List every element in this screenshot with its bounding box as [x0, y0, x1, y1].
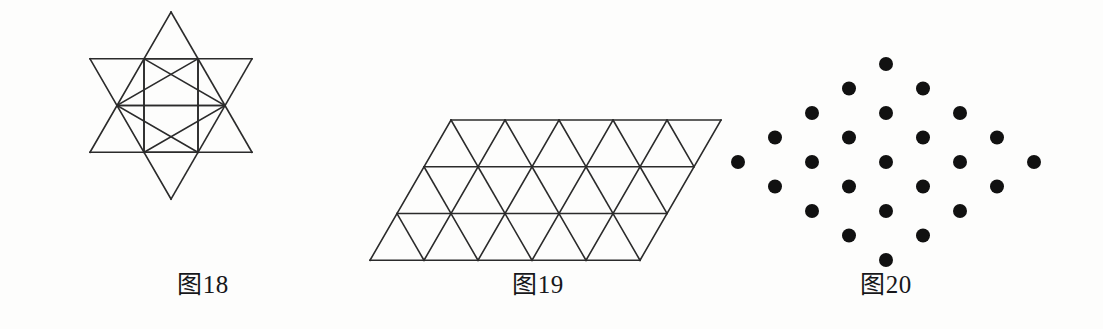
para-slant-right — [613, 120, 640, 167]
para-slant-right — [424, 167, 451, 214]
figure-19 — [352, 110, 724, 274]
dot — [768, 131, 782, 145]
dot — [842, 131, 856, 145]
hexagram-figure — [18, 6, 388, 274]
dot — [879, 106, 893, 120]
para-slant-left — [424, 120, 505, 260]
para-slant-left — [478, 120, 559, 260]
para-slant-right — [451, 214, 478, 261]
dot — [990, 180, 1004, 194]
dot — [990, 131, 1004, 145]
para-slant-right — [559, 120, 586, 167]
dot — [768, 180, 782, 194]
para-slant-right — [532, 167, 559, 214]
para-slant-left — [586, 120, 667, 260]
dot — [953, 106, 967, 120]
para-slant-right — [640, 167, 667, 214]
dot — [805, 204, 819, 218]
dot — [842, 180, 856, 194]
para-slant-right — [613, 214, 640, 261]
dot — [1027, 155, 1041, 169]
para-slant-right — [559, 214, 586, 261]
dot — [805, 106, 819, 120]
para-slant-right — [397, 214, 424, 261]
dot — [916, 131, 930, 145]
dot — [879, 253, 893, 267]
dot — [953, 204, 967, 218]
dot — [879, 204, 893, 218]
para-slant-right — [667, 120, 694, 167]
parallelogram-figure — [352, 110, 724, 274]
dot — [842, 82, 856, 96]
dot — [916, 180, 930, 194]
figure-20-caption: 图20 — [700, 272, 1072, 297]
para-slant-right — [478, 167, 505, 214]
para-slant-left — [532, 120, 613, 260]
figure-sheet: 图18 图19 图20 — [0, 0, 1103, 329]
dot-array-figure — [700, 52, 1072, 274]
dot — [916, 229, 930, 243]
figure-18-caption: 图18 — [18, 272, 388, 297]
dot — [731, 155, 745, 169]
dot — [805, 155, 819, 169]
para-slant-right — [451, 120, 478, 167]
para-slant-right — [505, 120, 532, 167]
dot — [879, 57, 893, 71]
dot — [916, 82, 930, 96]
figure-19-caption: 图19 — [352, 272, 724, 297]
figure-20 — [700, 52, 1072, 274]
para-slant-right — [586, 167, 613, 214]
para-slant-right — [505, 214, 532, 261]
figure-18 — [18, 6, 388, 274]
dot — [953, 155, 967, 169]
dot — [879, 155, 893, 169]
para-slant-left — [370, 120, 451, 260]
dot — [842, 229, 856, 243]
